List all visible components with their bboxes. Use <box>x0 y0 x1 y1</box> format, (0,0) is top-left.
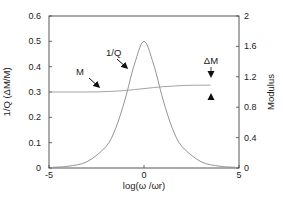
right-tick-label: 1.2 <box>244 72 257 82</box>
right-tick-label: 0.8 <box>244 102 257 112</box>
left-tick-label: 0.4 <box>28 62 41 72</box>
left-tick-label: 0.5 <box>28 36 41 46</box>
left-tick-label: 0.2 <box>28 112 41 122</box>
left-axis-ticks: 00.10.20.30.40.50.6 <box>28 11 52 173</box>
delta-m-up-arrow-icon <box>208 93 215 100</box>
x-axis-ticks: -505 <box>45 165 242 180</box>
x-tick-label: 0 <box>141 170 146 180</box>
left-axis-label: 1/Q (ΔM/M) <box>1 67 12 116</box>
series-modulus-line <box>49 85 211 92</box>
right-tick-label: 1.6 <box>244 41 257 51</box>
right-tick-label: 0 <box>244 163 249 173</box>
right-tick-label: 2 <box>244 11 249 21</box>
annotation-m-label: M <box>76 66 84 77</box>
x-tick-label: -5 <box>45 170 53 180</box>
annotation-1-over-q-label: 1/Q <box>106 47 121 58</box>
left-tick-label: 0.3 <box>28 87 41 97</box>
annotation-1-over-q-arrow <box>117 59 127 68</box>
x-axis-label: log(ω /ωr) <box>123 180 165 191</box>
annotation-m-arrow <box>89 78 99 87</box>
right-axis-label: Modulus <box>265 74 276 110</box>
left-tick-label: 0.1 <box>28 138 41 148</box>
chart: -505 00.10.20.30.40.50.6 00.40.81.21.62 … <box>0 0 283 206</box>
x-tick-label: 5 <box>236 170 241 180</box>
annotation-delta-m-label: ΔM <box>204 55 218 66</box>
left-tick-label: 0 <box>36 163 41 173</box>
delta-m-down-arrow-icon <box>208 71 215 78</box>
left-tick-label: 0.6 <box>28 11 41 21</box>
right-tick-label: 0.4 <box>244 133 257 143</box>
